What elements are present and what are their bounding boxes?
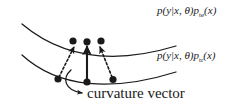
curvature-arrow-right bbox=[100, 47, 112, 77]
train-label-suffix: (x) bbox=[203, 49, 215, 61]
train-distribution-curve bbox=[22, 55, 176, 84]
test-point-3 bbox=[97, 37, 104, 44]
test-label-prefix: p(y|x, θ)p bbox=[157, 4, 199, 16]
curvature-vector-caption: curvature vector bbox=[87, 85, 185, 102]
train-point-1 bbox=[54, 75, 61, 82]
train-label-prefix: p(y|x, θ)p bbox=[157, 49, 199, 61]
train-distribution-label: p(y|x, θ)ptr(x) bbox=[157, 49, 216, 64]
train-point-3 bbox=[109, 76, 116, 83]
test-distribution-label: p(y|x, θ)pte(x) bbox=[157, 4, 216, 19]
test-label-suffix: (x) bbox=[204, 4, 216, 16]
test-point-1 bbox=[69, 37, 76, 44]
curvature-arrow-left bbox=[59, 47, 74, 77]
curvature-vector-figure: p(y|x, θ)pte(x) p(y|x, θ)ptr(x) curvatur… bbox=[0, 0, 245, 106]
test-point-2 bbox=[83, 38, 90, 45]
